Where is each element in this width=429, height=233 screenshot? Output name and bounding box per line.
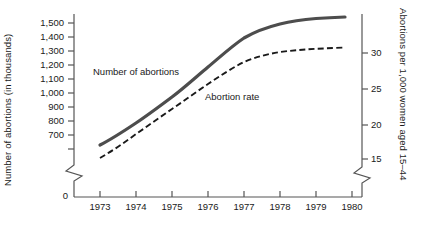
left-axis-title-text: Number of abortions (in thousands) xyxy=(2,34,13,186)
left-tick-label-800: 800 xyxy=(26,115,64,126)
x-tick-label-1980: 1980 xyxy=(335,201,369,212)
right-axis-break-zigzag xyxy=(354,162,370,197)
x-tick-label-1974: 1974 xyxy=(119,201,153,212)
x-axis-group xyxy=(74,191,362,197)
series-line-number-of-abortions xyxy=(100,17,345,145)
right-axis-group xyxy=(354,14,370,197)
x-axis-ticks xyxy=(100,191,352,197)
x-tick-label-1976: 1976 xyxy=(191,201,225,212)
left-tick-label-900: 900 xyxy=(26,101,64,112)
series-line-abortion-rate xyxy=(100,48,345,159)
x-tick-label-1975: 1975 xyxy=(155,201,189,212)
right-axis-ticks xyxy=(362,53,368,159)
x-tick-label-1979: 1979 xyxy=(299,201,333,212)
left-tick-label-0: 0 xyxy=(56,190,68,201)
left-tick-label-1100: 1,100 xyxy=(26,73,64,84)
abortion-trends-chart: Number of abortions (in thousands) Abort… xyxy=(0,0,429,233)
left-tick-label-1000: 1,000 xyxy=(26,87,64,98)
series-annotation-abortion-rate: Abortion rate xyxy=(205,91,259,102)
right-axis-title: Abortions per 1,000 women aged 15–44 xyxy=(398,0,414,200)
x-tick-label-1977: 1977 xyxy=(227,201,261,212)
left-tick-label-700: 700 xyxy=(26,129,64,140)
x-tick-label-1978: 1978 xyxy=(263,201,297,212)
left-tick-label-1400: 1,400 xyxy=(26,31,64,42)
left-axis-break-zigzag xyxy=(66,160,82,197)
left-tick-label-1300: 1,300 xyxy=(26,45,64,56)
left-axis-ticks xyxy=(68,23,74,149)
right-tick-label-15: 15 xyxy=(371,153,397,164)
left-axis-title: Number of abortions (in thousands) xyxy=(0,0,16,200)
right-tick-label-25: 25 xyxy=(371,83,397,94)
series-annotation-number-of-abortions: Number of abortions xyxy=(93,66,179,77)
x-tick-label-1973: 1973 xyxy=(83,201,117,212)
right-tick-label-20: 20 xyxy=(371,119,397,130)
right-tick-label-30: 30 xyxy=(371,47,397,58)
left-tick-label-1200: 1,200 xyxy=(26,59,64,70)
left-axis-group xyxy=(66,14,82,197)
right-axis-title-text: Abortions per 1,000 women aged 15–44 xyxy=(398,8,409,181)
left-tick-label-1500: 1,500 xyxy=(26,17,64,28)
